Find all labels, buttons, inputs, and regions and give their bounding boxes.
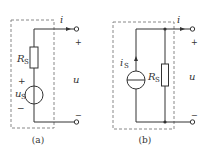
- current-label: i: [177, 14, 180, 25]
- terminal-plus: +: [191, 38, 198, 47]
- voltage-label: u: [189, 71, 195, 82]
- terminal-top: [190, 27, 194, 31]
- resistor-subscript: S: [155, 76, 160, 84]
- terminal-minus: −: [75, 111, 82, 120]
- current-label: i: [60, 14, 63, 25]
- source-plus: +: [18, 76, 26, 86]
- current-arrow-icon: [66, 27, 71, 31]
- source-subscript: S: [124, 62, 129, 70]
- source-subscript: S: [21, 93, 26, 101]
- panel-b-current-source-model: i i S R S + u − (b): [113, 14, 198, 145]
- source-minus: −: [17, 103, 25, 113]
- resistor-subscript: S: [24, 58, 29, 66]
- voltage-label: u: [73, 74, 79, 85]
- circuit-diagram: i R S + u S − + u − (a) i i: [0, 0, 203, 157]
- junction-bottom: [163, 120, 166, 123]
- caption-a: (a): [32, 135, 44, 145]
- resistor-rs: [30, 47, 38, 68]
- source-current-arrow-icon: [134, 56, 138, 61]
- source-label: i: [120, 57, 123, 68]
- terminal-top: [74, 27, 78, 31]
- resistor-rs: [162, 64, 169, 86]
- terminal-plus: +: [75, 38, 82, 47]
- terminal-bottom: [190, 120, 194, 124]
- terminal-minus: −: [191, 111, 198, 120]
- panel-a-voltage-source-model: i R S + u S − + u − (a): [11, 14, 82, 145]
- current-arrow-icon: [180, 27, 185, 31]
- caption-b: (b): [139, 135, 152, 145]
- terminal-bottom: [74, 120, 78, 124]
